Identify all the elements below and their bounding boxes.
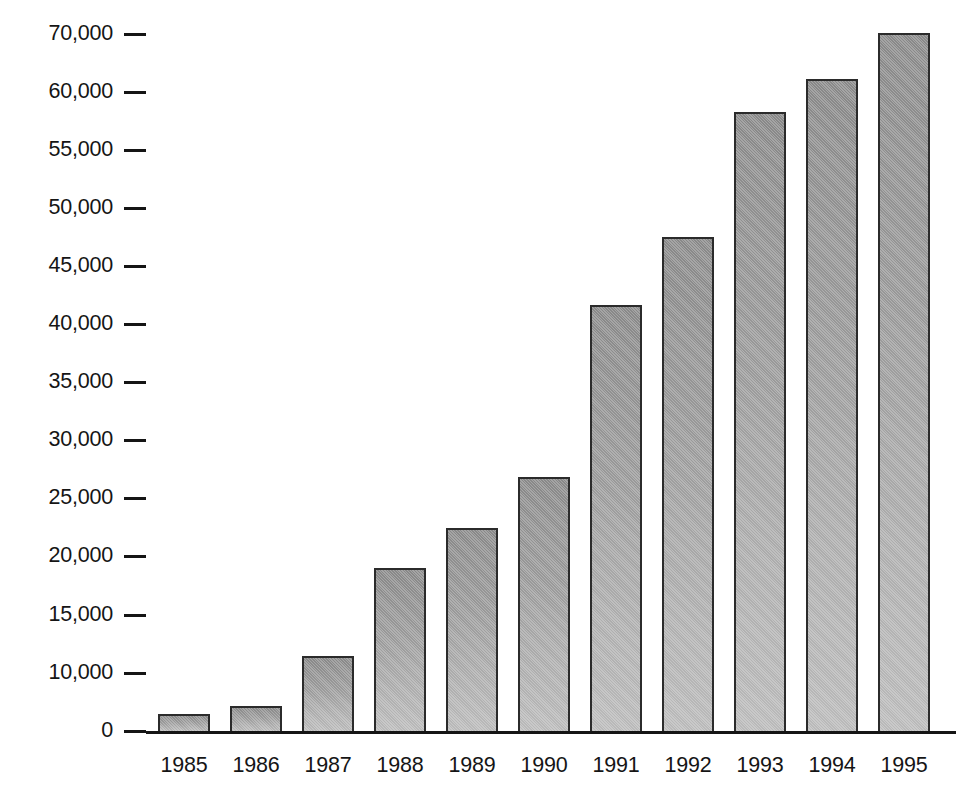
y-axis-tick-label: 30,000 [48, 429, 113, 451]
x-axis-tick-label: 1989 [436, 755, 508, 777]
y-axis-tick-dash [124, 265, 146, 268]
y-axis-tick-label: 45,000 [48, 255, 113, 277]
y-axis-tick-dash [124, 497, 146, 500]
y-axis-tick-dash [124, 91, 146, 94]
y-axis-tick-label: 50,000 [48, 197, 113, 219]
bar[interactable] [590, 305, 642, 734]
x-axis-baseline [146, 731, 956, 734]
bar[interactable] [446, 528, 498, 734]
bars-layer [146, 0, 956, 801]
y-axis-tick-dash [124, 614, 146, 617]
bar[interactable] [302, 656, 354, 734]
y-axis-tick-dash [124, 555, 146, 558]
x-axis-tick-label: 1993 [724, 755, 796, 777]
y-axis-tick-label: 40,000 [48, 313, 113, 335]
bar[interactable] [230, 706, 282, 734]
y-axis-tick-dash [124, 33, 146, 36]
y-axis-tick-label: 20,000 [48, 545, 113, 567]
y-axis-tick-label: 15,000 [48, 604, 113, 626]
plot-area: 1985198619871988198919901991199219931994… [146, 0, 956, 801]
y-axis-tick-dash [124, 149, 146, 152]
x-axis-tick-label: 1985 [148, 755, 220, 777]
x-axis-tick-label: 1995 [868, 755, 940, 777]
y-axis-tick-dash [124, 672, 146, 675]
y-axis-tick-label: 35,000 [48, 371, 113, 393]
bar[interactable] [374, 568, 426, 734]
x-axis-tick-label: 1991 [580, 755, 652, 777]
y-axis-tick-dash [124, 381, 146, 384]
y-axis-tick-label: 60,000 [48, 81, 113, 103]
y-axis-tick-label: 55,000 [48, 139, 113, 161]
x-axis-tick-label: 1986 [220, 755, 292, 777]
y-axis-tick-label: 25,000 [48, 487, 113, 509]
x-axis-tick-label: 1992 [652, 755, 724, 777]
bar-chart: 70,00060,00055,00050,00045,00040,00035,0… [0, 0, 956, 801]
y-axis-tick-dash [124, 730, 146, 733]
x-axis-tick-label: 1987 [292, 755, 364, 777]
y-axis-tick-label: 0 [101, 720, 113, 742]
y-axis-tick-dash [124, 207, 146, 210]
bar[interactable] [734, 112, 786, 734]
x-axis-tick-label: 1988 [364, 755, 436, 777]
bar[interactable] [518, 477, 570, 734]
bar[interactable] [878, 33, 930, 734]
bar[interactable] [806, 79, 858, 734]
x-axis-tick-label: 1994 [796, 755, 868, 777]
bar[interactable] [662, 237, 714, 734]
x-axis-tick-label: 1990 [508, 755, 580, 777]
y-axis-tick-dash [124, 323, 146, 326]
y-axis: 70,00060,00055,00050,00045,00040,00035,0… [0, 0, 146, 801]
y-axis-tick-dash [124, 439, 146, 442]
y-axis-tick-label: 10,000 [48, 662, 113, 684]
y-axis-tick-label: 70,000 [48, 23, 113, 45]
